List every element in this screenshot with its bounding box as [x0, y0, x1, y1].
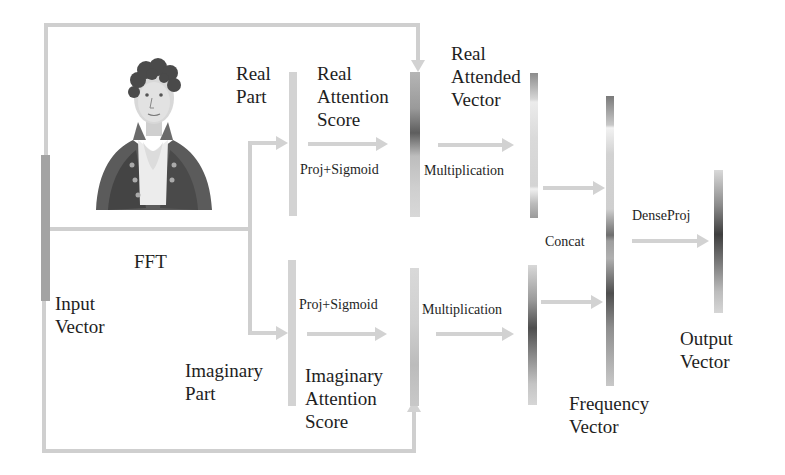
real-attended-vector-bar	[530, 73, 538, 218]
arrow-multiplication-imag	[436, 332, 502, 336]
label-fft: FFT	[134, 250, 167, 273]
skip-connector-bottom-right	[412, 410, 416, 453]
label-input-vector: Input Vector	[55, 292, 105, 338]
skip-connector-top	[44, 23, 420, 27]
label-output-vector: Output Vector	[680, 327, 733, 373]
imaginary-part-bar	[288, 260, 296, 406]
arrow-down-icon	[411, 60, 425, 72]
arrow-to-real-part	[250, 141, 276, 145]
real-part-bar	[289, 72, 297, 216]
label-frequency-vector: Frequency Vector	[569, 392, 649, 438]
imaginary-attention-score-bar	[410, 268, 419, 406]
op-concat: Concat	[545, 233, 585, 250]
skip-connector-bottom-left	[42, 298, 46, 453]
skip-connector-bottom	[42, 449, 416, 453]
arrow-to-imaginary-part	[250, 331, 276, 335]
fourier-portrait	[88, 40, 218, 215]
real-attention-score-bar	[410, 72, 420, 217]
imaginary-attended-vector-bar	[528, 265, 537, 405]
arrow-multiplication-real	[438, 143, 502, 147]
op-dense-proj: DenseProj	[632, 207, 690, 224]
input-vector-bar	[41, 155, 50, 301]
arrow-concat-imag	[541, 300, 591, 304]
fft-connector-horizontal	[50, 227, 252, 231]
label-real-attention-score: Real Attention Score	[317, 62, 389, 131]
label-real-part: Real Part	[236, 62, 271, 108]
arrow-concat-real	[543, 186, 593, 190]
op-proj-sigmoid-imag: Proj+Sigmoid	[299, 296, 378, 313]
arrow-dense-proj	[632, 239, 697, 243]
label-real-attended-vector: Real Attended Vector	[451, 42, 521, 111]
arrow-proj-sigmoid-imag	[307, 332, 375, 336]
op-proj-sigmoid-real: Proj+Sigmoid	[300, 161, 379, 178]
skip-connector-top-left	[44, 23, 48, 158]
output-vector-bar	[714, 170, 723, 313]
op-multiplication-real: Multiplication	[424, 162, 504, 179]
op-multiplication-imag: Multiplication	[422, 301, 502, 318]
arrow-proj-sigmoid-real	[308, 142, 376, 146]
label-imaginary-attention-score: Imaginary Attention Score	[305, 364, 383, 433]
skip-connector-top-right	[416, 23, 420, 63]
fft-connector-vertical	[248, 141, 252, 335]
frequency-vector-bar	[606, 96, 614, 386]
label-imaginary-part: Imaginary Part	[185, 359, 263, 405]
